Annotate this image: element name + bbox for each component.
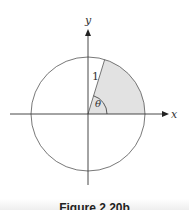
y-axis-label: y — [84, 14, 92, 27]
y-axis-arrow-icon — [85, 29, 91, 36]
figure-caption: Figure 2.20b — [0, 199, 189, 210]
radius-label: 1 — [92, 70, 99, 83]
x-axis-label: x — [171, 108, 178, 121]
angle-label: θ — [95, 98, 101, 109]
unit-circle-diagram: y x 1 θ — [0, 0, 189, 210]
x-axis-arrow-icon — [162, 111, 169, 117]
